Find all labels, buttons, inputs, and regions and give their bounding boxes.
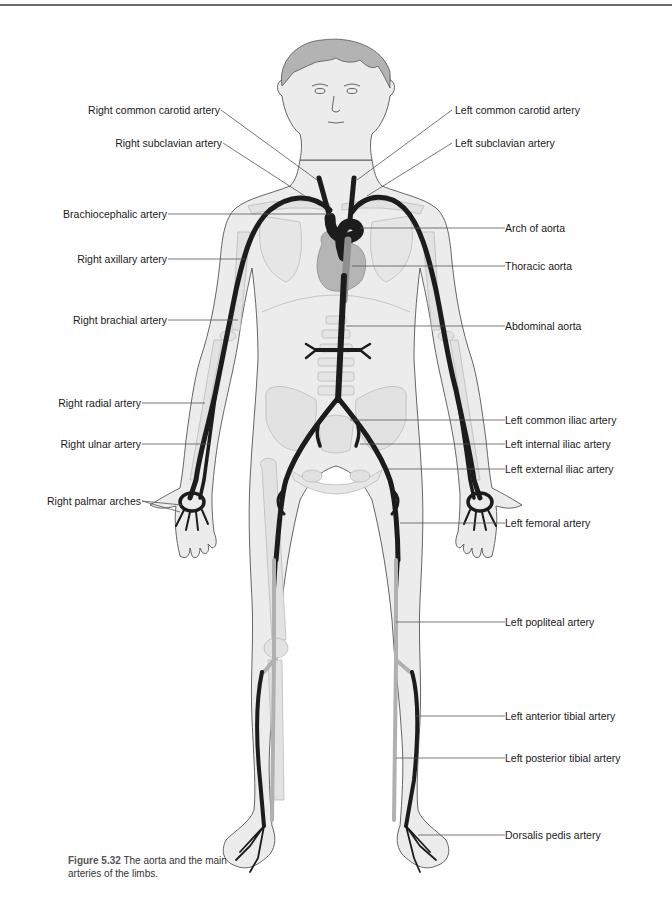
label-left-posterior-tibial-artery: Left posterior tibial artery: [505, 752, 621, 764]
label-left-common-carotid-artery: Left common carotid artery: [455, 104, 580, 116]
label-left-popliteal-artery: Left popliteal artery: [505, 616, 594, 628]
label-left-subclavian-artery: Left subclavian artery: [455, 137, 555, 149]
right-popliteal-vessel: [272, 560, 274, 820]
figure-number: Figure 5.32: [68, 855, 121, 866]
label-right-ulnar-artery: Right ulnar artery: [60, 438, 141, 450]
left-popliteal-vessel: [394, 560, 396, 820]
label-right-radial-artery: Right radial artery: [58, 397, 141, 409]
label-right-common-carotid-artery: Right common carotid artery: [88, 104, 220, 116]
arterial-system-illustration: [0, 0, 672, 914]
label-left-internal-iliac-artery: Left internal iliac artery: [505, 438, 611, 450]
label-arch-of-aorta: Arch of aorta: [505, 222, 565, 234]
label-abdominal-aorta: Abdominal aorta: [505, 320, 581, 332]
label-dorsalis-pedis-artery: Dorsalis pedis artery: [505, 829, 601, 841]
label-right-brachial-artery: Right brachial artery: [73, 314, 167, 326]
label-right-axillary-artery: Right axillary artery: [77, 253, 167, 265]
label-left-common-iliac-artery: Left common iliac artery: [505, 414, 616, 426]
label-right-subclavian-artery: Right subclavian artery: [115, 137, 222, 149]
label-brachiocephalic-artery: Brachiocephalic artery: [63, 208, 167, 220]
label-right-palmar-arches: Right palmar arches: [47, 495, 141, 507]
label-thoracic-aorta: Thoracic aorta: [505, 260, 572, 272]
label-left-anterior-tibial-artery: Left anterior tibial artery: [505, 710, 615, 722]
label-left-external-iliac-artery: Left external iliac artery: [505, 463, 614, 475]
label-left-femoral-artery: Left femoral artery: [505, 517, 590, 529]
figure-caption: Figure 5.32 The aorta and the main arter…: [68, 854, 228, 880]
